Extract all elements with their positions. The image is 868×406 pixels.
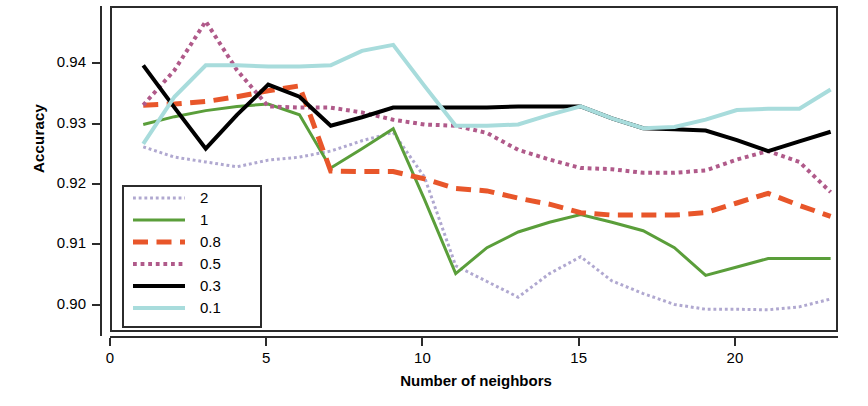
x-tick-label: 0: [90, 349, 130, 366]
y-tick-mark: [92, 62, 100, 64]
legend-swatch-1: [132, 213, 186, 227]
chart-figure: Accuracy Number of neighbors 0.900.910.9…: [0, 0, 868, 406]
legend-label: 0.1: [200, 301, 221, 315]
legend-entry-0.8[interactable]: 0.8: [124, 231, 260, 253]
y-axis-line: [100, 6, 102, 336]
y-tick-mark: [92, 183, 100, 185]
x-tick-mark: [421, 338, 423, 346]
y-tick-label: 0.91: [24, 234, 86, 251]
legend-swatch-2: [132, 191, 186, 205]
legend-swatch-0.5: [132, 257, 186, 271]
legend-swatch-0.1: [132, 301, 186, 315]
y-tick-mark: [92, 243, 100, 245]
legend-entry-0.1[interactable]: 0.1: [124, 297, 260, 319]
legend-box: 210.80.50.30.1: [122, 185, 262, 328]
x-tick-label: 15: [559, 349, 599, 366]
legend-entry-1[interactable]: 1: [124, 209, 260, 231]
x-tick-mark: [734, 338, 736, 346]
x-tick-mark: [109, 338, 111, 346]
legend-swatch-0.3: [132, 279, 186, 293]
legend-label: 2: [200, 191, 208, 205]
legend-label: 1: [200, 213, 208, 227]
x-tick-mark: [265, 338, 267, 346]
legend-label: 0.8: [200, 235, 221, 249]
legend-entry-2[interactable]: 2: [124, 187, 260, 209]
x-axis-label: Number of neighbors: [114, 372, 838, 389]
legend-entry-0.3[interactable]: 0.3: [124, 275, 260, 297]
y-tick-label: 0.94: [24, 53, 86, 70]
x-tick-label: 20: [715, 349, 755, 366]
x-tick-label: 5: [246, 349, 286, 366]
y-tick-label: 0.90: [24, 295, 86, 312]
y-tick-mark: [92, 123, 100, 125]
x-tick-label: 10: [402, 349, 442, 366]
legend-label: 0.3: [200, 279, 221, 293]
x-axis-line: [110, 336, 838, 338]
y-tick-mark: [92, 304, 100, 306]
y-tick-label: 0.92: [24, 174, 86, 191]
legend-label: 0.5: [200, 257, 221, 271]
legend-swatch-0.8: [132, 235, 186, 249]
x-tick-mark: [578, 338, 580, 346]
y-tick-label: 0.93: [24, 114, 86, 131]
legend-entry-0.5[interactable]: 0.5: [124, 253, 260, 275]
